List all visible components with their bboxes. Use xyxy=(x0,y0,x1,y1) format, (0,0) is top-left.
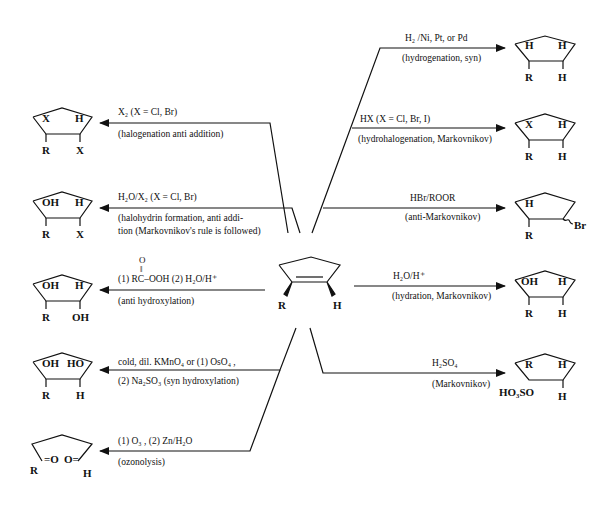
p-l4-br: H xyxy=(76,390,85,401)
desc-anti-hydroxylation: (anti hydroxylation) xyxy=(118,297,194,307)
desc-halogenation: (halogenation anti addition) xyxy=(118,130,224,140)
reagent-ozonolysis: (1) O₃ , (2) Zn/H₂O xyxy=(118,437,192,447)
p-r1-bl: R xyxy=(525,72,533,83)
p-l3-br: OH xyxy=(72,312,89,323)
reagent-halogenation: X₂ (X = Cl, Br) xyxy=(118,108,177,118)
p-l3-tl: OH xyxy=(42,280,59,291)
p-l3-bl: R xyxy=(42,312,50,323)
reaction-lines xyxy=(0,0,609,505)
desc-halohydrin-2: tion (Markovnikov's rule is followed) xyxy=(118,227,261,237)
p-l2-tl: OH xyxy=(42,197,59,208)
desc-syn-hydroxylation: (2) Na₂SO₃ (syn hydroxylation) xyxy=(118,377,239,387)
p-r2-br: H xyxy=(558,151,567,162)
p-l2-br: X xyxy=(76,229,84,240)
p-r3-bl: R xyxy=(525,230,533,241)
reagent-halohydrin: H₂O/X₂ (X = Cl, Br) xyxy=(118,193,197,203)
p-l5-h: H xyxy=(83,468,92,479)
p-r1-br: H xyxy=(558,72,567,83)
p-r4-tr: H xyxy=(558,276,567,287)
p-r2-bl: R xyxy=(525,151,533,162)
p-r5-tl: R xyxy=(525,359,533,370)
p-r1-tl: H xyxy=(525,40,534,51)
p-l5-r: R xyxy=(30,465,38,476)
p-r3-br: Br xyxy=(574,220,586,231)
p-r3-tl: H xyxy=(525,198,534,209)
p-l1-tl: X xyxy=(42,113,50,124)
p-r2-tl: X xyxy=(525,119,533,130)
reagent-hbr-roor: HBr/ROOR xyxy=(410,194,455,204)
p-l3-tr: H xyxy=(75,280,84,291)
center-sub-right: H xyxy=(333,300,342,311)
reagent-hydration: H₂O/H⁺ xyxy=(393,272,425,282)
reagent-anti-hydroxylation: (1) RC–OOH (2) H₂O/H⁺ xyxy=(118,275,217,285)
desc-halohydrin: (halohydrin formation, anti addi- xyxy=(118,214,243,224)
p-l2-bl: R xyxy=(42,229,50,240)
reagent-syn-hydroxylation: cold, dil. KMnO₄ or (1) OsO₄ , xyxy=(118,358,236,368)
p-l5-co-right: O= xyxy=(64,454,79,465)
p-l4-tr: HO xyxy=(67,358,84,369)
p-r4-tl: OH xyxy=(521,276,538,287)
desc-hydrogenation: (hydrogenation, syn) xyxy=(402,54,481,64)
p-l1-bl: R xyxy=(42,145,50,156)
p-r5-br: H xyxy=(558,391,567,402)
p-r2-tr: H xyxy=(558,119,567,130)
ring-right-3 xyxy=(515,193,575,227)
p-r5-bl: HO₃SO xyxy=(499,387,534,398)
p-l5-co-left: =O xyxy=(44,454,59,465)
reagent-h2so4: H₂SO₄ xyxy=(432,359,458,369)
desc-hydration: (hydration, Markovnikov) xyxy=(392,292,491,302)
p-r5-tr: H xyxy=(558,359,567,370)
arrow-sulfonation xyxy=(310,328,505,373)
ring-left-5-ozonolysis xyxy=(32,435,92,461)
p-l2-tr: H xyxy=(75,197,84,208)
p-l4-tl: OH xyxy=(42,358,59,369)
desc-ozonolysis: (ozonolysis) xyxy=(118,458,165,468)
carbonyl-bond: ‖ xyxy=(140,265,143,274)
reagent-hydrohalogenation: HX (X = Cl, Br, I) xyxy=(360,115,430,125)
desc-hydrohalogenation: (hydrohalogenation, Markovnikov) xyxy=(358,135,492,145)
center-alkene xyxy=(279,257,340,282)
desc-anti-markovnikov: (anti-Markovnikov) xyxy=(405,213,480,223)
p-r4-br: H xyxy=(558,308,567,319)
reagent-hydrogenation: H₂ /Ni, Pt, or Pd xyxy=(405,34,467,44)
p-l1-br: X xyxy=(76,145,84,156)
p-l4-bl: R xyxy=(42,390,50,401)
desc-markovnikov: (Markovnikov) xyxy=(432,380,490,390)
p-r1-tr: H xyxy=(558,40,567,51)
p-l1-tr: H xyxy=(75,113,84,124)
center-sub-left: R xyxy=(278,300,286,311)
p-r4-bl: R xyxy=(525,308,533,319)
wavy-bond xyxy=(563,219,573,224)
